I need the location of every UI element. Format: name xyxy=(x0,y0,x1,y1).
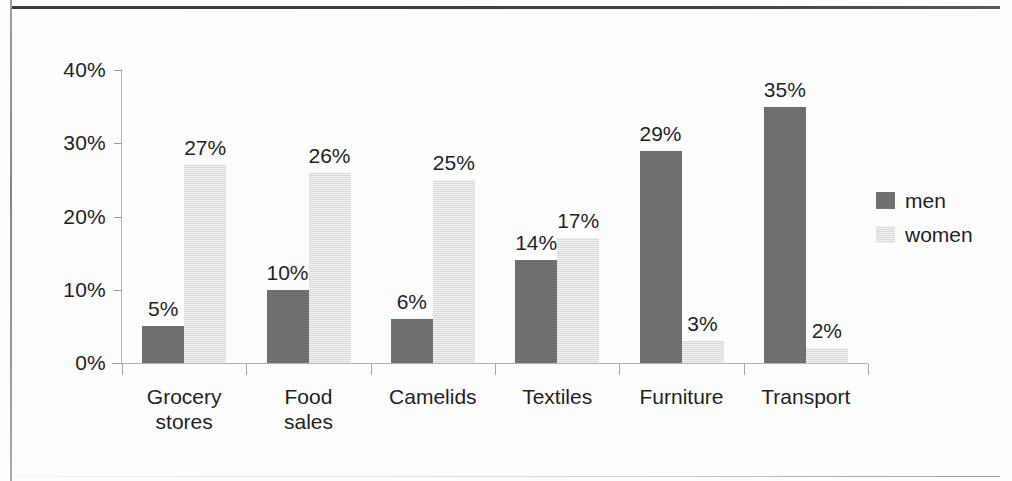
x-axis-separator-tick xyxy=(744,364,745,375)
legend-item-men[interactable]: men xyxy=(876,183,1006,217)
y-axis-tick xyxy=(114,290,122,291)
bar-value-label-men-3: 6% xyxy=(373,291,451,312)
legend-item-women[interactable]: women xyxy=(876,217,1006,251)
legend-swatch-women-icon xyxy=(876,226,895,243)
legend-swatch-men-icon xyxy=(876,192,895,209)
bar-men-1[interactable] xyxy=(142,326,184,363)
bar-value-label-women-3: 25% xyxy=(415,152,493,173)
bar-women-1[interactable] xyxy=(184,165,226,363)
bar-men-2[interactable] xyxy=(267,290,309,363)
x-axis-separator-tick xyxy=(371,364,372,375)
legend-label-men: men xyxy=(905,190,946,211)
bar-value-label-men-2: 10% xyxy=(249,262,327,283)
chart-legend: menwomen xyxy=(876,183,1006,251)
scanned-page: 0%10%20%30%40% 5%27%10%26%6%25%14%17%29%… xyxy=(0,0,1012,481)
x-axis-separator-tick xyxy=(246,364,247,375)
bar-value-label-men-5: 29% xyxy=(622,123,700,144)
bar-men-4[interactable] xyxy=(515,260,557,363)
x-axis-separator-tick xyxy=(619,364,620,375)
bar-women-5[interactable] xyxy=(682,341,724,363)
y-axis-tick-label: 40% xyxy=(42,59,106,80)
bar-women-6[interactable] xyxy=(806,348,848,363)
bar-value-label-women-1: 27% xyxy=(166,137,244,158)
x-axis-separator-tick xyxy=(122,364,123,375)
bar-value-label-women-5: 3% xyxy=(664,313,742,334)
bar-value-label-men-4: 14% xyxy=(497,232,575,253)
bar-value-label-women-6: 2% xyxy=(788,320,866,341)
bar-women-3[interactable] xyxy=(433,180,475,363)
y-axis-tick-label: 0% xyxy=(42,352,106,373)
bar-women-4[interactable] xyxy=(557,238,599,363)
y-axis-tick xyxy=(114,217,122,218)
plot-area xyxy=(122,70,868,363)
x-axis-separator-tick xyxy=(868,364,869,375)
y-axis-tick xyxy=(114,143,122,144)
y-axis-tick xyxy=(114,363,122,364)
bar-men-3[interactable] xyxy=(391,319,433,363)
x-axis-separator-tick xyxy=(495,364,496,375)
legend-label-women: women xyxy=(905,224,973,245)
y-axis-tick-label: 10% xyxy=(42,279,106,300)
x-axis-category-label-6: Transport xyxy=(732,384,880,409)
y-axis-tick-label: 20% xyxy=(42,206,106,227)
y-axis-tick xyxy=(114,70,122,71)
bar-value-label-men-1: 5% xyxy=(124,298,202,319)
bar-value-label-women-4: 17% xyxy=(539,210,617,231)
bar-value-label-women-2: 26% xyxy=(291,145,369,166)
y-axis-tick-label: 30% xyxy=(42,132,106,153)
grouped-bar-chart: 0%10%20%30%40% 5%27%10%26%6%25%14%17%29%… xyxy=(0,0,1012,481)
bar-value-label-men-6: 35% xyxy=(746,79,824,100)
